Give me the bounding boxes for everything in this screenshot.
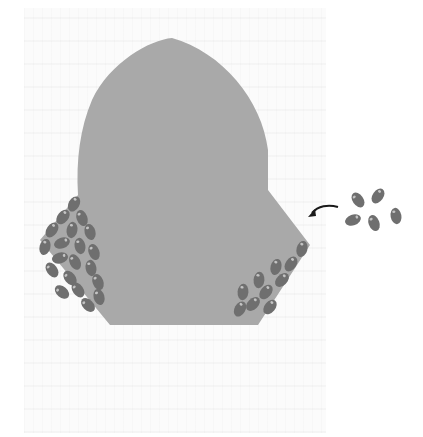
main-body-shape	[40, 38, 310, 325]
diagram-canvas	[0, 0, 423, 437]
free-beans	[343, 186, 402, 232]
approach-arrow-icon	[308, 206, 338, 217]
